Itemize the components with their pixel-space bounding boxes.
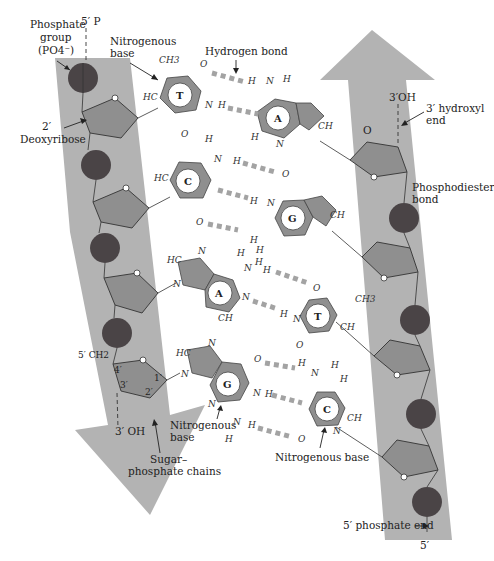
phosphate-right-2 [400, 305, 430, 335]
svg-text:CH: CH [330, 210, 345, 220]
arrowhead [217, 405, 223, 411]
hydrogen-bond [212, 73, 245, 82]
label-five-prime-p: 5′ P [81, 15, 100, 27]
label-five-prime-ch2: 5′ CH2 [78, 350, 109, 360]
hydrogen-bond [228, 108, 258, 114]
svg-text:HC: HC [175, 348, 191, 358]
label-carbon-1: 1′ [154, 373, 162, 383]
svg-text:N: N [243, 263, 253, 273]
svg-text:H: H [297, 358, 306, 368]
label-three-prime-hydroxyl: 3′ hydroxyl [426, 102, 485, 114]
ring-oxygen-left-4 [140, 357, 146, 363]
label-deoxyribose-2prime: 2′ [42, 120, 52, 132]
svg-text:H: H [247, 420, 256, 430]
svg-text:H: H [254, 257, 263, 267]
base-letter-t-bottom: T [314, 311, 322, 322]
svg-text:CH: CH [347, 413, 362, 423]
ring-oxygen-left-1 [112, 95, 118, 101]
svg-text:O: O [254, 354, 262, 364]
label-carbon-3: 3′ [120, 380, 128, 390]
svg-text:N: N [207, 399, 217, 409]
label-sugar-phosphate-chains: Sugar– [150, 453, 187, 465]
hydrogen-bond [276, 272, 308, 283]
base-letter-g-bottom: G [223, 379, 232, 390]
svg-text:H: H [217, 100, 226, 110]
svg-text:O: O [181, 129, 189, 139]
svg-text:HC: HC [166, 255, 182, 265]
svg-text:H: H [264, 389, 273, 399]
svg-text:N: N [310, 368, 320, 378]
svg-text:HC: HC [142, 92, 158, 102]
phosphate-right-1 [389, 203, 419, 233]
label-three-prime-oh-left: 3′ OH [115, 425, 145, 437]
svg-text:CH3: CH3 [355, 294, 376, 304]
hydrogen-bond [243, 163, 275, 172]
base-letter-a: A [273, 113, 282, 124]
svg-text:H: H [204, 134, 213, 144]
hydrogen-bond [258, 428, 292, 437]
svg-text:O: O [200, 59, 208, 69]
label-carbon-2: 2′ [145, 387, 153, 397]
svg-text:N: N [252, 388, 262, 398]
label-phosphate-group: Phosphate [30, 18, 86, 30]
ring-oxygen-right-3 [394, 372, 400, 378]
base-letter-c-bottom: C [323, 404, 331, 415]
svg-text:H: H [255, 245, 264, 255]
label-three-prime-oh-right: 3′OH [389, 91, 416, 103]
hydrogen-bond [208, 224, 238, 230]
phosphate-right-4 [412, 487, 442, 517]
phosphate-left-4 [102, 318, 132, 348]
ring-oxygen-right-1 [371, 174, 377, 180]
ring-oxygen-right-4 [401, 474, 407, 480]
label-deoxyribose: Deoxyribose [20, 133, 86, 145]
label-nitrogenous-base-top: Nitrogenous [110, 35, 176, 47]
svg-text:H: H [247, 76, 256, 86]
base-letter-t: T [176, 90, 184, 101]
ring-oxygen-left-2 [123, 185, 129, 191]
svg-text:H: H [224, 434, 233, 444]
label-three-prime-hydroxyl: end [426, 114, 446, 126]
svg-text:CH: CH [218, 313, 233, 323]
base-pair-c-g: C H N H HC O G O H N CH H H H [153, 134, 345, 267]
svg-text:CH3: CH3 [159, 55, 180, 65]
arrowhead [321, 427, 327, 433]
base-letter-g: G [288, 213, 297, 224]
svg-text:O: O [298, 434, 306, 444]
svg-text:H: H [282, 74, 291, 84]
label-hydrogen-bond: Hydrogen bond [205, 45, 288, 57]
svg-text:CH: CH [318, 121, 333, 131]
svg-text:N: N [207, 338, 217, 348]
hydrogen-bond [265, 363, 295, 368]
svg-text:N: N [332, 426, 342, 436]
label-phosphodiester-bond: Phosphodiester [412, 181, 494, 193]
label-carbon-4: 4′ [114, 365, 122, 375]
nitrogenous-base-right-pointer [320, 430, 324, 448]
label-phosphate-formula: (PO4⁻) [38, 44, 74, 56]
svg-text:N: N [266, 198, 276, 208]
hydrogen-bond [272, 395, 302, 403]
svg-text:O: O [313, 283, 321, 293]
label-five-prime-phosphate-end: 5′ phosphate end [343, 519, 434, 531]
ring-oxygen-right-2 [381, 275, 387, 281]
svg-text:H: H [339, 374, 348, 384]
base-letter-a-bottom: A [214, 288, 223, 299]
svg-text:N: N [204, 100, 214, 110]
svg-text:CH: CH [340, 322, 355, 332]
label-phosphate-group: group [40, 31, 72, 43]
svg-text:N: N [275, 139, 285, 149]
svg-text:N: N [241, 292, 251, 302]
svg-text:H: H [236, 248, 245, 258]
hydrogen-bond [253, 301, 278, 309]
arrowhead [233, 68, 239, 74]
base-pair-a-t: A HC N N H N H N CH T O CH3 CH H N O [166, 246, 376, 350]
svg-text:N: N [197, 246, 207, 256]
label-nitrogenous-base-bottom: base [170, 431, 195, 443]
label-nitrogenous-base-right: Nitrogenous base [275, 451, 369, 463]
label-nitrogenous-base-top: base [110, 47, 135, 59]
phosphate-left-2 [81, 150, 111, 180]
phosphate-left-3 [90, 233, 120, 263]
sugar-right-1-oxygen: O [363, 124, 372, 136]
arrowhead [151, 74, 158, 80]
ring-oxygen-left-3 [134, 270, 140, 276]
label-phosphodiester-bond: bond [412, 193, 439, 205]
